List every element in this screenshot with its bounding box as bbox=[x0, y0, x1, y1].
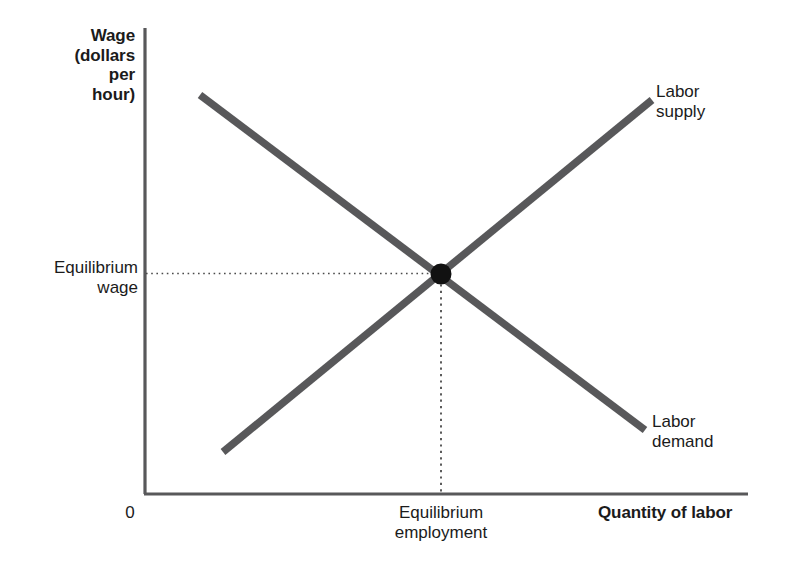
equilibrium-employment-label: Equilibrium employment bbox=[341, 503, 541, 542]
y-axis-title: Wage (dollars per hour) bbox=[30, 26, 135, 105]
origin-label: 0 bbox=[119, 503, 141, 523]
labor-demand-curve bbox=[200, 95, 645, 430]
labor-demand-curve-label: Labor demand bbox=[652, 412, 772, 451]
equilibrium-point-marker bbox=[431, 264, 452, 285]
x-axis-title: Quantity of labor bbox=[598, 503, 732, 523]
figure-canvas: Wage (dollars per hour) Quantity of labo… bbox=[0, 0, 789, 583]
equilibrium-wage-label: Equilibrium wage bbox=[10, 258, 138, 297]
labor-supply-curve-label: Labor supply bbox=[656, 82, 766, 121]
